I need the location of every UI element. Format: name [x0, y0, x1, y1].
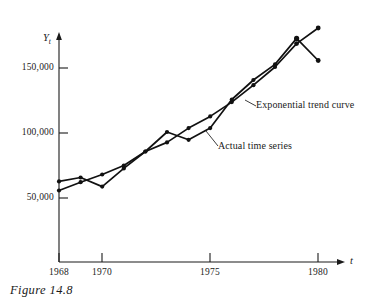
- x-tick-label-1980: 1980: [298, 267, 338, 277]
- y-tick-label-100000: 100,000: [6, 127, 54, 137]
- y-tick-label-150000: 150,000: [6, 62, 54, 72]
- x-tick-label-1975: 1975: [190, 267, 230, 277]
- series-line-actual-time-series: [59, 38, 318, 186]
- annotation-actual-time-series: Actual time series: [218, 140, 292, 151]
- x-tick-label-1968: 1968: [39, 267, 79, 277]
- x-axis-arrowhead: [337, 259, 345, 265]
- x-axis-label: t: [350, 255, 353, 266]
- x-tick-label-1970: 1970: [82, 267, 122, 277]
- y-axis-label-subscript: t: [49, 37, 51, 46]
- figure-caption: Figure 14.8: [10, 283, 73, 298]
- y-tick-label-50000: 50,000: [6, 192, 54, 202]
- leader-line-exponential-trend-curve: [245, 100, 256, 106]
- y-axis-label: Yt: [43, 32, 51, 46]
- leader-line-actual-time-series: [206, 131, 218, 146]
- series-markers-actual-time-series: [57, 36, 321, 189]
- annotation-exponential-trend-curve: Exponential trend curve: [256, 99, 354, 110]
- figure-container: 150,000 100,000 50,000 1968 1970 1975 19…: [0, 0, 367, 307]
- y-axis-arrowhead: [56, 32, 62, 40]
- chart-plot-area: [0, 0, 367, 307]
